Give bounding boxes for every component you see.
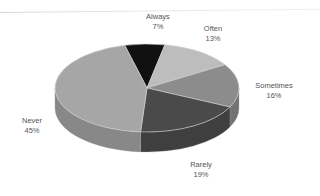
label-sometimes-value: 16% bbox=[255, 91, 293, 101]
label-often: Often 13% bbox=[204, 24, 222, 44]
label-sometimes: Sometimes 16% bbox=[255, 81, 293, 101]
label-never: Never 45% bbox=[22, 116, 42, 136]
pie-top-faces bbox=[55, 44, 239, 132]
label-always: Always 7% bbox=[146, 12, 170, 32]
label-often-name: Often bbox=[204, 24, 222, 34]
label-never-name: Never bbox=[22, 116, 42, 126]
label-always-name: Always bbox=[146, 12, 170, 22]
label-rarely-value: 19% bbox=[190, 170, 212, 180]
label-often-value: 13% bbox=[204, 34, 222, 44]
label-never-value: 45% bbox=[22, 126, 42, 136]
label-always-value: 7% bbox=[146, 22, 170, 32]
label-rarely-name: Rarely bbox=[190, 160, 212, 170]
label-sometimes-name: Sometimes bbox=[255, 81, 293, 91]
label-rarely: Rarely 19% bbox=[190, 160, 212, 180]
